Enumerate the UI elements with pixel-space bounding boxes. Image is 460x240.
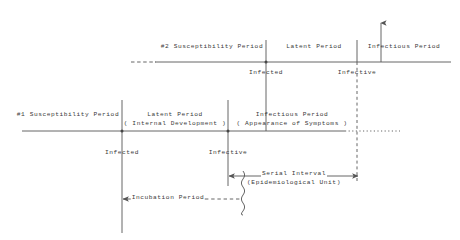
node-primary-infective	[227, 130, 230, 133]
squiggle-marker-icon	[241, 171, 244, 215]
secondary-segment-label-susceptibility: #2 Susceptibility Period	[161, 43, 263, 51]
primary-segment-label-latent: Latent Period	[147, 111, 202, 119]
primary-segment-sublabel-latent: ( Internal Development )	[124, 120, 226, 128]
node-primary-infected	[121, 130, 124, 133]
secondary-segment-label-infectious: Infectious Period	[368, 43, 440, 51]
incubation-period-label: Incubation Period	[131, 194, 205, 202]
primary-event-label-infective: Infective	[209, 149, 247, 157]
primary-event-label-infected: Infected	[105, 149, 139, 157]
serial-interval-label: Serial Interval	[261, 170, 327, 178]
secondary-event-label-infective: Infective	[338, 69, 376, 77]
secondary-segment-label-latent: Latent Period	[286, 43, 341, 51]
secondary-event-label-infected: Infected	[249, 69, 283, 77]
primary-segment-label-susceptibility: #1 Susceptibility Period	[17, 111, 119, 119]
serial-interval-sublabel: (Epidemiological Unit)	[247, 179, 341, 187]
primary-segment-label-infectious: Infectious Period	[256, 111, 328, 119]
primary-segment-sublabel-infectious: ( Appearance of Symptoms )	[237, 120, 348, 128]
